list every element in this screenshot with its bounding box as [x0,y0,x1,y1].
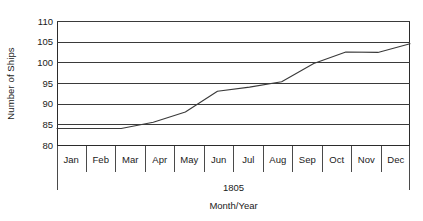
y-tick-label: 90 [42,99,53,109]
x-tick-label-sep: Sep [293,146,323,172]
x-tick-label-oct: Oct [323,146,353,172]
y-tick-label: 80 [42,141,53,151]
x-tick-label-jun: Jun [205,146,235,172]
ship-count-line-chart: Number of Ships 80859095100105110 JanFeb… [0,0,423,221]
y-axis-title: Number of Ships [2,20,18,146]
y-tick-label: 105 [37,37,53,47]
x-tick-label-feb: Feb [87,146,117,172]
gridline [57,104,410,105]
series-polyline [57,44,410,129]
y-tick-label: 100 [37,58,53,68]
gridline [57,62,410,63]
x-tick-label-may: May [175,146,205,172]
gridline [57,42,410,43]
x-tick-label-nov: Nov [352,146,382,172]
y-axis-tick-labels: 80859095100105110 [18,14,56,152]
x-tick-label-mar: Mar [116,146,146,172]
y-axis-title-text: Number of Ships [5,47,16,119]
gridline [57,83,410,84]
gridline [57,21,410,22]
x-tick-label-apr: Apr [146,146,176,172]
x-tick-label-jan: Jan [57,146,87,172]
gridline [57,124,410,125]
year-label: 1805 [57,182,410,193]
x-tick-label-aug: Aug [264,146,294,172]
x-axis-month-labels: JanFebMarAprMayJunJulAugSepOctNovDec [57,146,410,172]
x-tick-label-dec: Dec [382,146,411,172]
y-tick-label: 110 [38,17,53,27]
y-tick-label: 95 [42,79,53,89]
x-axis-title: Month/Year [57,200,410,211]
y-tick-label: 85 [42,120,53,130]
plot-area [57,21,410,145]
x-tick-label-jul: Jul [234,146,264,172]
